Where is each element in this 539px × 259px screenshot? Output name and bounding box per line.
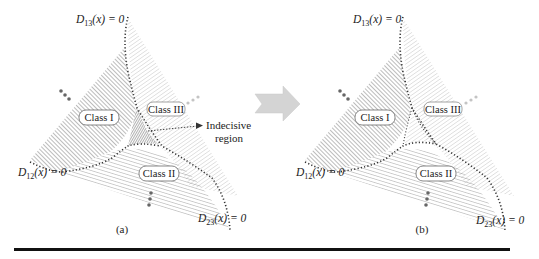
- class3-label: Class III: [147, 102, 185, 116]
- svg-text:Class III: Class III: [425, 104, 461, 115]
- class3-label-b: Class III: [424, 102, 462, 116]
- class1-label: Class I: [79, 110, 119, 125]
- svg-text:Class I: Class I: [85, 112, 114, 123]
- figure-canvas: Class I Class III Class II Indecisive re…: [0, 0, 539, 259]
- transition-arrow-icon: [255, 86, 300, 121]
- eq-d12-b: D12(x) = 0: [295, 166, 345, 181]
- bottom-rule: [14, 248, 510, 251]
- caption-a: (a): [116, 223, 129, 236]
- eq-d12-a: D12(x) = 0: [17, 166, 67, 181]
- panel-a: Class I Class III Class II Indecisive re…: [17, 13, 251, 236]
- pointer-arrowhead-icon: [196, 123, 203, 130]
- class2-label: Class II: [139, 166, 179, 181]
- indecisive-label-line2: region: [215, 132, 244, 144]
- svg-text:Class II: Class II: [143, 168, 176, 179]
- class2-label-b: Class II: [416, 166, 456, 181]
- class1-label-b: Class I: [355, 110, 395, 125]
- panel-b: Class I Class III Class II D13(x) = 0 D1…: [295, 13, 525, 236]
- dots-class1-b: [338, 89, 350, 101]
- dots-class3-b: [464, 95, 477, 104]
- eq-d13-b: D13(x) = 0: [352, 13, 402, 28]
- svg-text:Class II: Class II: [420, 168, 453, 179]
- svg-text:Class I: Class I: [361, 112, 390, 123]
- eq-d13-a: D13(x) = 0: [75, 13, 125, 28]
- caption-b: (b): [416, 223, 429, 236]
- svg-text:Class III: Class III: [148, 104, 184, 115]
- dots-class1: [59, 89, 71, 101]
- indecisive-label-line1: Indecisive: [206, 119, 251, 131]
- dots-class3: [186, 95, 199, 104]
